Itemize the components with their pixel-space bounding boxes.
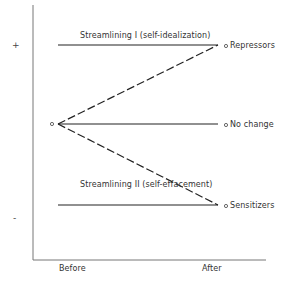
streamlining-ii-title: Streamlining II (self-effacement)	[80, 180, 212, 189]
repressors-marker	[224, 44, 227, 47]
before-label: Before	[59, 264, 86, 273]
sensitizers-marker	[224, 204, 227, 207]
no-change-label: No change	[230, 120, 274, 129]
sensitizers-dashed-line	[58, 124, 218, 205]
origin-marker	[50, 122, 53, 125]
after-label: After	[202, 264, 222, 273]
positive-sign: +	[12, 40, 20, 50]
repressors-label: Repressors	[230, 41, 275, 50]
streamlining-i-title: Streamlining I (self-idealization)	[80, 31, 211, 40]
no-change-marker	[224, 123, 227, 126]
negative-sign: -	[13, 213, 16, 223]
sensitizers-label: Sensitizers	[230, 201, 275, 210]
repressors-dashed-line	[58, 45, 218, 124]
